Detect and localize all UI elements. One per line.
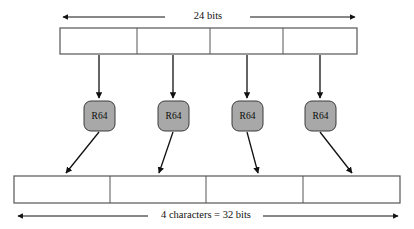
encoder-to-output-arrow-1 [66, 132, 99, 173]
output-block-frame [14, 176, 400, 203]
top-dimension-label: 24 bits [194, 10, 222, 21]
output-block [14, 176, 400, 203]
encoder-label-2: R64 [166, 111, 182, 121]
bottom-dimension-group: 4 characters = 32 bits [18, 209, 398, 220]
top-dimension-group: 24 bits [63, 10, 355, 21]
diagram-canvas: 24 bits R64 R64 R64 [0, 0, 414, 229]
encoder-label-3: R64 [240, 111, 256, 121]
input-block [60, 28, 357, 54]
encoder-nodes: R64 R64 R64 R64 [84, 101, 336, 131]
input-block-frame [60, 28, 357, 54]
base64-encoding-diagram: 24 bits R64 R64 R64 [0, 0, 414, 229]
input-to-encoder-arrows [99, 55, 320, 98]
encoder-to-output-arrow-4 [320, 132, 352, 173]
bottom-dimension-label: 4 characters = 32 bits [161, 209, 251, 220]
encoder-to-output-arrow-2 [159, 132, 173, 173]
encoder-label-1: R64 [92, 111, 108, 121]
encoder-to-output-arrows [66, 132, 352, 173]
encoder-to-output-arrow-3 [247, 132, 258, 173]
encoder-label-4: R64 [313, 111, 329, 121]
